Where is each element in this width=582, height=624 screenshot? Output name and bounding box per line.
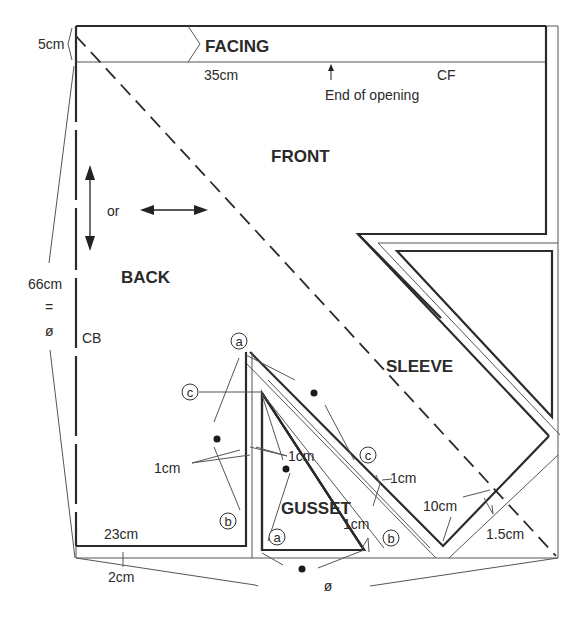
- marker-a-gusset: a: [269, 529, 285, 545]
- hem-allowance-label: 2cm: [108, 569, 134, 585]
- front-label: FRONT: [271, 147, 330, 166]
- marker-c-left: c: [182, 384, 198, 400]
- facing-label: FACING: [205, 37, 269, 56]
- marker-a-top: a: [231, 333, 247, 349]
- back-width-label: 23cm: [104, 526, 138, 542]
- end-of-opening-label: End of opening: [325, 87, 419, 103]
- facing-depth-label: 5cm: [38, 36, 64, 52]
- marker-c-right: c: [360, 447, 376, 463]
- svg-text:b: b: [387, 531, 394, 546]
- cb-label: CB: [82, 330, 101, 346]
- seam-1cm-left: 1cm: [154, 460, 180, 476]
- back-piece: [76, 62, 252, 558]
- pattern-layout-diagram: a c b c a b FACING FRONT BACK SLEEVE GUS…: [0, 0, 582, 624]
- svg-text:a: a: [235, 334, 243, 349]
- svg-text:b: b: [224, 514, 231, 529]
- sleeve-width-label: 10cm: [423, 498, 457, 514]
- seam-1cm-gusset-bottom: 1cm: [343, 516, 369, 532]
- marker-b-gusset: b: [383, 530, 399, 546]
- marker-b-left: b: [220, 513, 236, 529]
- grain-or-label: or: [107, 203, 120, 219]
- svg-text:c: c: [365, 448, 372, 463]
- sleeve-label: SLEEVE: [386, 357, 453, 376]
- gusset-label: GUSSET: [281, 499, 352, 518]
- seam-1cm-gusset-right: 1cm: [390, 470, 416, 486]
- facing-piece: [76, 26, 546, 62]
- total-length-label: 66cm: [28, 276, 62, 292]
- svg-text:a: a: [273, 530, 281, 545]
- facing-width-label: 35cm: [204, 67, 238, 83]
- bottom-diameter-label: ø: [324, 578, 333, 594]
- cf-label: CF: [437, 67, 456, 83]
- sleeve-offset-label: 1.5cm: [486, 526, 524, 542]
- diameter-label-left: ø: [45, 323, 54, 339]
- seam-1cm-gusset-top: 1cm: [288, 448, 314, 464]
- svg-text:c: c: [187, 385, 194, 400]
- equals-label: =: [45, 299, 53, 315]
- back-label: BACK: [121, 268, 171, 287]
